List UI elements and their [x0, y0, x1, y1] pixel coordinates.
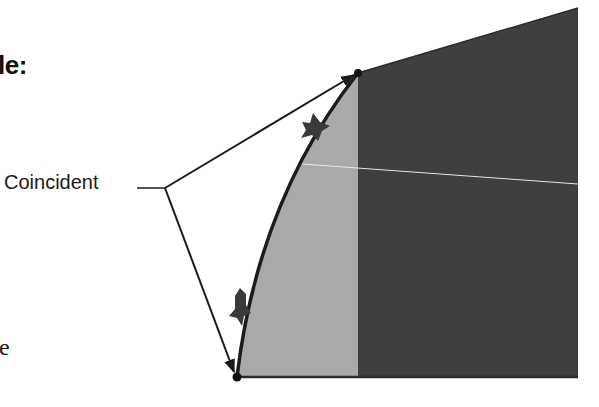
light-region: [237, 73, 358, 377]
arrow-to-bottom-vertex: [165, 188, 234, 372]
top-vertex-point: [354, 69, 362, 77]
bottom-vertex-point: [233, 373, 242, 382]
coincident-constraint-diagram: [0, 0, 599, 407]
